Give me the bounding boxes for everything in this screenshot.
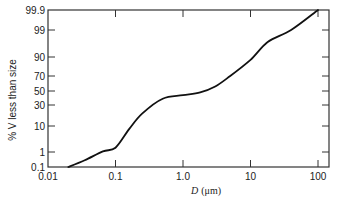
x-tick-label: 0.1 [109, 171, 123, 182]
x-tick-label: 1.0 [176, 171, 190, 182]
y-tick-label: 70 [34, 71, 46, 82]
plot-frame [48, 10, 329, 167]
figure-caption [2, 203, 337, 210]
y-tick-label: 10 [34, 121, 46, 132]
y-tick-label: 50 [34, 86, 46, 97]
y-tick-labels: 0.1110305070909999.9 [26, 5, 46, 173]
y-tick-label: 90 [34, 52, 46, 63]
x-tick-label: 100 [310, 171, 327, 182]
axis-ticks [48, 10, 329, 167]
x-axis-title: D(μm) [190, 185, 221, 197]
y-axis-title: % V less than size [7, 59, 18, 141]
particle-size-distribution-chart: 0.1110305070909999.9 0.010.11.010100 D(μ… [0, 0, 339, 210]
x-tick-label: 10 [245, 171, 257, 182]
y-tick-label: 99 [34, 25, 46, 36]
x-tick-label: 0.01 [38, 171, 58, 182]
y-tick-label: 30 [34, 100, 46, 111]
distribution-curve [68, 10, 318, 167]
y-tick-label: 99.9 [26, 5, 46, 16]
x-tick-labels: 0.010.11.010100 [38, 171, 327, 182]
y-tick-label: 1 [39, 147, 45, 158]
